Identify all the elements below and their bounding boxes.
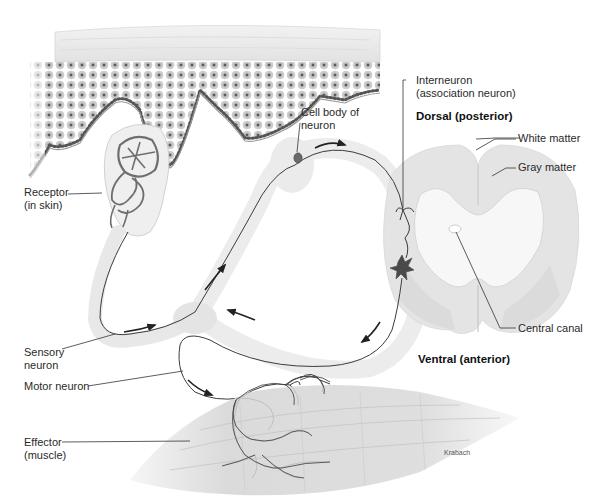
label-central-canal: Central canal <box>518 322 583 335</box>
reflex-arc-diagram: Receptor (in skin) Cell body of neuron I… <box>0 0 597 500</box>
label-dorsal: Dorsal (posterior) <box>416 110 513 123</box>
label-motor-neuron: Motor neuron <box>24 380 89 393</box>
label-gray-matter: Gray matter <box>518 161 576 174</box>
label-interneuron: Interneuron (association neuron) <box>416 74 516 100</box>
label-effector: Effector (muscle) <box>24 436 66 462</box>
label-cell-body: Cell body of neuron <box>301 106 359 132</box>
motor-neuron-leader <box>88 371 183 386</box>
sensory-cell-body <box>294 153 302 163</box>
label-receptor: Receptor (in skin) <box>24 186 69 212</box>
receptor-leader <box>68 193 102 194</box>
artist-credit: Krabach <box>444 446 470 459</box>
label-white-matter: White matter <box>518 132 580 145</box>
label-sensory-neuron: Sensory neuron <box>24 346 64 372</box>
muscle-effector <box>130 385 520 495</box>
receptor-structure <box>104 124 169 236</box>
label-ventral: Ventral (anterior) <box>418 353 510 366</box>
